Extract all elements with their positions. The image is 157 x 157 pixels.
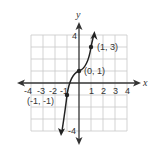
x-tick-label: 2 <box>101 86 106 96</box>
x-tick-label: 3 <box>113 86 118 96</box>
x-tick-labels: -4 -3 -2 -1 1 2 3 4 <box>24 86 130 96</box>
x-axis-label: x <box>142 77 148 88</box>
point-label-neg1-neg1: (-1, -1) <box>27 96 54 106</box>
x-tick-label: -3 <box>37 86 45 96</box>
x-tick-label: -2 <box>49 86 57 96</box>
x-tick-label: 1 <box>89 86 94 96</box>
x-tick-label: -4 <box>24 86 32 96</box>
curve-top-arrow-icon <box>91 31 98 40</box>
point-label-1-3: (1, 3) <box>97 42 118 52</box>
coordinate-plane: y x -4 -3 -2 -1 1 2 3 4 4 -4 (1, 3) (0, … <box>0 0 157 157</box>
x-tick-label: 4 <box>125 86 130 96</box>
point-neg1-neg1 <box>65 93 69 97</box>
y-axis-label: y <box>75 9 81 20</box>
point-label-0-1: (0, 1) <box>84 66 105 76</box>
y-tick-label: -4 <box>68 126 76 136</box>
curve-bottom-arrow-icon <box>58 128 65 136</box>
point-0-1 <box>77 69 81 73</box>
point-1-3 <box>89 45 93 49</box>
y-tick-label: 4 <box>72 31 77 41</box>
